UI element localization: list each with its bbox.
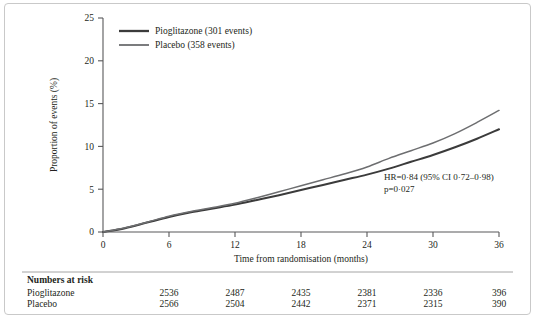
legend-label: Placebo (358 events) bbox=[155, 40, 235, 51]
numbers-at-risk-table: Numbers at risk Pioglitazone253624872435… bbox=[27, 275, 506, 309]
risk-cell: 2381 bbox=[358, 288, 377, 298]
risk-cell: 2504 bbox=[226, 299, 245, 309]
legend-label: Pioglitazone (301 events) bbox=[155, 26, 252, 37]
x-tick-label: 12 bbox=[230, 240, 240, 250]
x-tick-label: 36 bbox=[494, 240, 504, 250]
risk-table-heading: Numbers at risk bbox=[27, 275, 94, 285]
y-tick-label: 0 bbox=[89, 227, 94, 237]
p-value-line: p=0·027 bbox=[384, 184, 415, 194]
risk-cell: 2371 bbox=[358, 299, 377, 309]
x-tick-label: 0 bbox=[101, 240, 106, 250]
x-tick-label: 24 bbox=[362, 240, 372, 250]
kaplan-meier-chart: 0510152025 061218243036 Proportion of ev… bbox=[0, 0, 538, 328]
y-tick-label: 20 bbox=[85, 56, 95, 66]
y-tick-label: 25 bbox=[85, 13, 95, 23]
y-axis-title: Proportion of events (%) bbox=[49, 78, 60, 172]
risk-cell: 2487 bbox=[226, 288, 245, 298]
chart-plot-area: 0510152025 061218243036 Proportion of ev… bbox=[0, 0, 538, 328]
chart-legend: Pioglitazone (301 events)Placebo (358 ev… bbox=[119, 26, 252, 51]
risk-row-label: Placebo bbox=[27, 299, 57, 309]
x-axis-tick-labels: 061218243036 bbox=[101, 240, 504, 250]
x-axis-title: Time from randomisation (months) bbox=[234, 254, 368, 265]
x-tick-label: 18 bbox=[296, 240, 306, 250]
hazard-ratio-annotation: HR=0·84 (95% CI 0·72–0·98) p=0·027 bbox=[384, 172, 494, 194]
risk-row-label: Pioglitazone bbox=[27, 288, 75, 298]
risk-cell: 2442 bbox=[292, 299, 311, 309]
risk-cell: 2536 bbox=[160, 288, 179, 298]
y-axis-ticks bbox=[98, 18, 103, 232]
risk-cell: 2336 bbox=[424, 288, 443, 298]
x-tick-label: 6 bbox=[167, 240, 172, 250]
x-tick-label: 30 bbox=[428, 240, 438, 250]
y-axis-tick-labels: 0510152025 bbox=[85, 13, 95, 237]
risk-cell: 2435 bbox=[292, 288, 311, 298]
y-tick-label: 10 bbox=[85, 142, 95, 152]
figure-container: 0510152025 061218243036 Proportion of ev… bbox=[0, 0, 538, 328]
x-axis-ticks bbox=[103, 232, 499, 237]
y-tick-label: 15 bbox=[85, 99, 95, 109]
risk-cell: 2566 bbox=[160, 299, 179, 309]
risk-cell: 2315 bbox=[424, 299, 443, 309]
risk-cell: 390 bbox=[492, 299, 507, 309]
axis-group bbox=[98, 18, 499, 237]
hazard-ratio-line: HR=0·84 (95% CI 0·72–0·98) bbox=[384, 172, 494, 182]
y-tick-label: 5 bbox=[89, 185, 94, 195]
risk-cell: 396 bbox=[492, 288, 507, 298]
